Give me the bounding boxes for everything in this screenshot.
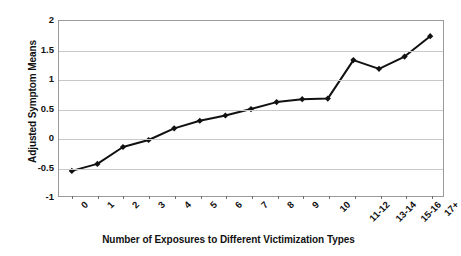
x-tick-label: 6 (233, 199, 245, 211)
gridline (59, 51, 443, 52)
data-point-marker (197, 118, 203, 124)
y-axis-tick-labels: 21.510.50-0.5-1 (22, 0, 54, 256)
gridline (59, 139, 443, 140)
x-tick-label: 5 (207, 199, 219, 211)
y-tick-label: 1 (28, 74, 54, 84)
y-tick-label: 0.5 (28, 104, 54, 114)
gridline (59, 110, 443, 111)
y-tick-label: 1.5 (28, 45, 54, 55)
x-tick-label: 2 (130, 199, 142, 211)
x-tick-label: 10 (337, 199, 352, 214)
x-tick-label: 3 (156, 199, 168, 211)
data-point-marker (274, 99, 280, 105)
gridline (59, 169, 443, 170)
x-axis-title: Number of Exposures to Different Victimi… (0, 234, 457, 245)
data-point-marker (222, 112, 228, 118)
data-point-marker (299, 96, 305, 102)
y-tick-label: -0.5 (28, 163, 54, 173)
x-tick-label: 15-16 (419, 199, 444, 224)
x-tick-label: 7 (259, 199, 271, 211)
gridline (59, 80, 443, 81)
y-tick-label: 0 (28, 133, 54, 143)
x-tick-label: 4 (181, 199, 193, 211)
data-series-layer (59, 21, 443, 196)
x-tick-label: 9 (310, 199, 322, 211)
y-tick-label: -1 (28, 192, 54, 202)
x-tick-label: 13-14 (393, 199, 418, 224)
data-line (72, 36, 430, 171)
x-tick-label: 8 (284, 199, 296, 211)
data-point-marker (146, 137, 152, 143)
x-tick-label: 17+ (442, 199, 461, 218)
x-tick-label: 1 (104, 199, 116, 211)
data-point-marker (171, 125, 177, 131)
x-axis-tick-labels: 01234567891011-1213-1415-1617+ (58, 199, 444, 239)
x-tick-label: 0 (78, 199, 90, 211)
x-tick-label: 11-12 (367, 199, 392, 224)
y-tick-label: 2 (28, 15, 54, 25)
plot-area (58, 20, 444, 197)
data-point-marker (376, 66, 382, 72)
